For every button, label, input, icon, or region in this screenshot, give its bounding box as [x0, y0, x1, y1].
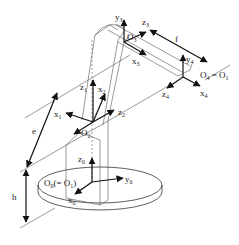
- label-z3: z3: [142, 17, 149, 28]
- label-e: e: [32, 126, 36, 136]
- frame-4: y4 x4 z4 O4 = O1: [162, 54, 229, 100]
- label-y3: y3: [115, 12, 123, 23]
- label-z4: z4: [162, 89, 169, 100]
- label-z2: z2: [118, 107, 125, 118]
- diagram-svg: h e f z0 y0 x0 O0(= O1) z1 x2 x1 z2 O2: [0, 0, 239, 245]
- label-y4: y4: [186, 54, 194, 65]
- label-y0: y0: [125, 174, 133, 185]
- dimension-f: f: [150, 30, 207, 62]
- label-O4: O4 = O1: [200, 70, 229, 81]
- label-O3: O3: [127, 32, 137, 43]
- label-x4: x4: [200, 88, 208, 99]
- label-h: h: [12, 192, 17, 202]
- label-x0: x0: [68, 195, 76, 206]
- forearm-link: [108, 25, 192, 76]
- frame-3: y3 z3 O3 x3: [115, 12, 149, 67]
- label-O2: O2: [81, 128, 91, 139]
- dimension-e: e: [27, 93, 57, 167]
- robot-kinematics-diagram: h e f z0 y0 x0 O0(= O1) z1 x2 x1 z2 O2: [0, 0, 239, 245]
- label-x2: x2: [98, 84, 106, 95]
- label-x3: x3: [132, 56, 140, 67]
- label-x1: x1: [54, 109, 62, 120]
- upper-arm-link: [82, 24, 130, 125]
- dimension-h: h: [12, 170, 26, 222]
- label-z1: z1: [80, 82, 87, 93]
- reference-lines: [20, 55, 230, 228]
- label-z0: z0: [78, 154, 85, 165]
- label-O0: O0(= O1): [44, 178, 76, 189]
- label-f: f: [175, 34, 178, 44]
